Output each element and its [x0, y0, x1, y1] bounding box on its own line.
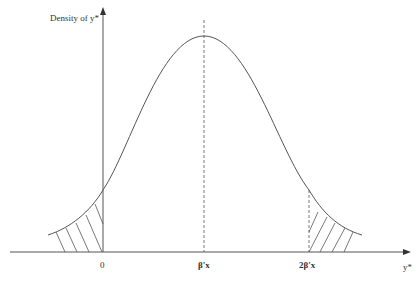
left-tail-hatch [56, 204, 103, 252]
x-axis-label: y* [403, 262, 412, 272]
tick-mean: β'x [198, 260, 210, 270]
density-diagram [0, 0, 420, 282]
y-axis-label: Density of y* [50, 13, 99, 23]
tick-zero: 0 [100, 260, 105, 270]
tick-double-mean: 2β'x [299, 260, 315, 270]
y-axis-arrow-icon [100, 7, 106, 15]
x-axis-arrow-icon [403, 249, 411, 255]
